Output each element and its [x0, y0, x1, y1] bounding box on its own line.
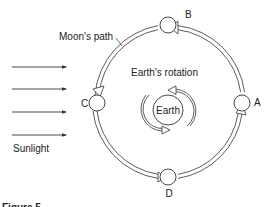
moon-label-c: C [81, 98, 88, 109]
moon-a [234, 95, 250, 111]
rotation-arrowhead-icon [168, 86, 176, 95]
moons-path-label: Moon's path [59, 31, 113, 42]
sunlight-arrows [12, 67, 66, 135]
moon-d [160, 169, 176, 185]
earth-label: Earth [156, 105, 180, 116]
moon-label-a: A [254, 97, 261, 108]
moon-label-d: D [165, 188, 172, 199]
moon-b [160, 17, 176, 33]
sunlight-label: Sunlight [13, 143, 49, 154]
moon-phase-diagram: Sunlight A B C D Moon's path Earth [0, 0, 279, 207]
moon-c [89, 95, 105, 111]
moon-label-b: B [185, 9, 192, 20]
rotation-arrowhead-icon [162, 126, 170, 134]
earths-rotation-label: Earth's rotation [131, 67, 198, 78]
figure-caption: Figure 5 [2, 202, 41, 207]
